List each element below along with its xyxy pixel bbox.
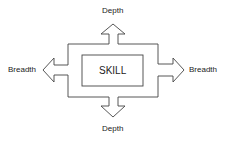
right-breadth-label: Breadth bbox=[189, 66, 217, 74]
top-depth-label: Depth bbox=[102, 7, 123, 15]
left-breadth-label: Breadth bbox=[8, 66, 36, 74]
skill-label: SKILL bbox=[99, 66, 126, 76]
bottom-depth-label: Depth bbox=[102, 125, 123, 133]
